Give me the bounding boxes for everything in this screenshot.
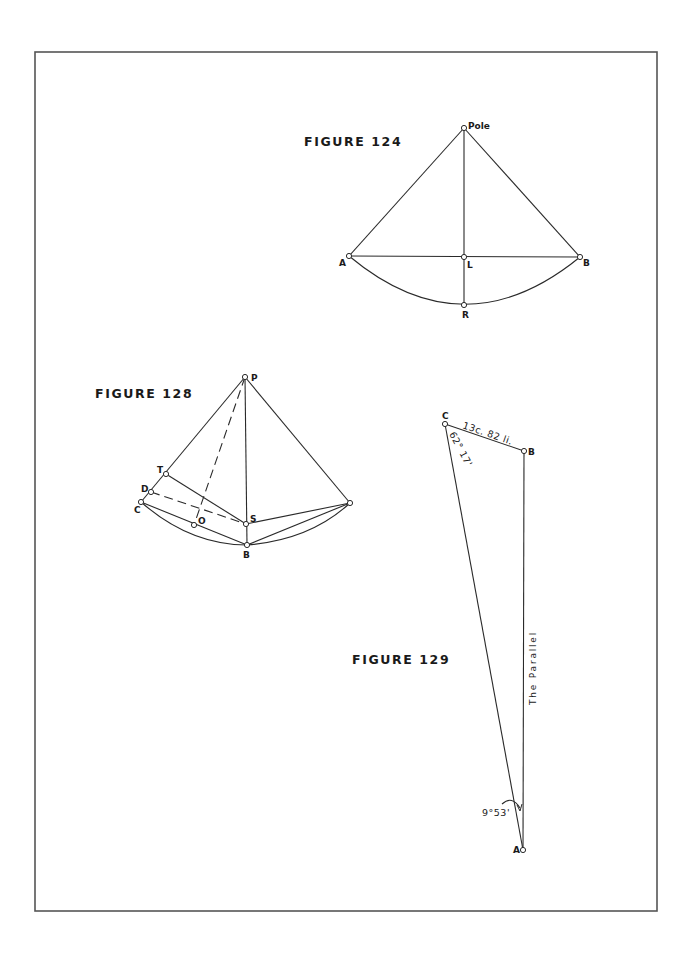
label-c: C: [134, 505, 141, 515]
point-d: [148, 489, 153, 494]
label-r: R: [462, 310, 469, 320]
figure-124: FIGURE 124 Pole A L B R: [304, 121, 590, 320]
label-angle-a: 9°53': [482, 807, 510, 818]
figure-129-title: FIGURE 129: [352, 652, 450, 667]
label-l: L: [467, 260, 473, 270]
figure-128-title: FIGURE 128: [95, 386, 193, 401]
point-pole: [461, 125, 466, 130]
figure-129: FIGURE 129 C B A 13c. 82 li. 62° 17' 9°5…: [352, 411, 538, 855]
point-p: [242, 374, 247, 379]
figure-124-title: FIGURE 124: [304, 134, 402, 149]
point-b: [244, 542, 249, 547]
label-s: S: [250, 514, 256, 524]
line-p-b: [245, 377, 247, 545]
label-distance: 13c. 82 li.: [461, 419, 514, 446]
point-o: [191, 522, 196, 527]
label-d: D: [141, 484, 148, 494]
label-b: B: [528, 447, 535, 457]
label-b: B: [583, 258, 590, 268]
point-r: [461, 302, 466, 307]
point-a: [520, 847, 525, 852]
line-b-right: [247, 503, 350, 545]
label-pole: Pole: [468, 121, 490, 131]
point-right: [347, 500, 352, 505]
label-o: O: [198, 516, 206, 526]
point-b: [577, 254, 582, 259]
label-t: T: [157, 465, 164, 475]
label-p: P: [251, 373, 258, 383]
label-angle-c: 62° 17': [447, 430, 475, 469]
line-c-a: [445, 424, 523, 850]
line-pole-b: [464, 128, 580, 257]
diagram-page: FIGURE 124 Pole A L B R FIGURE 128: [0, 0, 687, 957]
label-b: B: [243, 550, 250, 560]
page-border: [35, 52, 657, 911]
point-c: [442, 421, 447, 426]
point-c: [138, 499, 143, 504]
point-s: [243, 521, 248, 526]
line-p-right: [245, 377, 350, 503]
dashed-p-o: [194, 377, 245, 525]
label-the-parallel: The Parallel: [528, 631, 538, 706]
label-a: A: [339, 258, 346, 268]
point-a: [346, 253, 351, 258]
point-l: [461, 254, 466, 259]
line-s-right: [246, 503, 350, 524]
label-c: C: [442, 411, 449, 421]
label-a: A: [513, 845, 520, 855]
point-b: [521, 448, 526, 453]
figure-128: FIGURE 128 P T D C O S B: [95, 373, 353, 560]
line-parallel: [523, 451, 524, 850]
point-t: [163, 471, 168, 476]
